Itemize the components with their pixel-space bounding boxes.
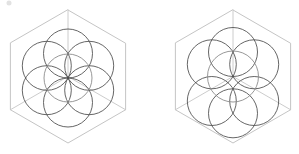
cube-inner-edge-lower-left-left [10,77,68,110]
sphere-packing-diagram [0,0,299,154]
cube-inner-edges-left [10,10,125,110]
cube-inner-edges-right [175,10,290,110]
figure-right [175,10,290,143]
cube-inner-edge-lower-left-right [175,77,233,110]
cube-inner-edge-lower-right-left [68,77,126,110]
figure-left [10,10,125,143]
cube-inner-edge-lower-right-right [233,77,291,110]
scan-speck-artifact [7,1,12,6]
